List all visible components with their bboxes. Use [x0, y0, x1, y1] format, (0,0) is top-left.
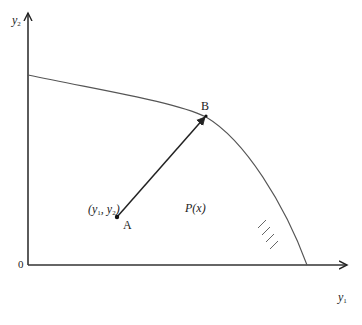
hatch-marks	[258, 220, 278, 249]
point-b-label: B	[201, 100, 209, 112]
diagram-canvas: y2 0 y1 (y1, y2) A B P(x)	[0, 0, 362, 325]
point-a-coordinates: (y1, y2)	[88, 203, 120, 217]
origin-label: 0	[18, 259, 24, 270]
y-axis-label: y2	[12, 14, 21, 28]
region-label: P(x)	[185, 202, 206, 214]
coord-close: )	[116, 202, 120, 216]
x-axis-label: y1	[338, 291, 347, 305]
y-axis-label-subscript: 2	[17, 20, 21, 28]
x-axis-label-subscript: 1	[343, 297, 347, 305]
diagram-svg	[0, 0, 362, 325]
point-b-dot	[204, 114, 207, 117]
coord-open: (y	[88, 202, 97, 216]
point-a-label: A	[123, 219, 132, 231]
coord-mid: , y	[101, 202, 112, 216]
frontier-curve	[28, 75, 307, 265]
